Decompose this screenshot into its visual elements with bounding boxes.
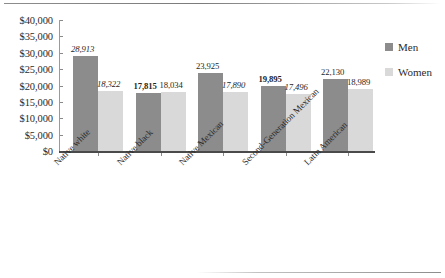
legend-item-label: Women (398, 66, 432, 78)
y-axis-tick-label: $20,000 (20, 80, 53, 91)
bar-value-label: 19,895 (259, 74, 282, 84)
x-axis-tick-mark (223, 153, 224, 156)
y-axis-tick-label: $0 (43, 146, 53, 157)
bar-value-label: 18,322 (97, 79, 120, 89)
bar-value-label: 23,925 (196, 61, 219, 71)
bar-value-label: 28,913 (71, 44, 94, 54)
y-axis-tick-label: $40,000 (20, 15, 53, 26)
legend-item-label: Men (398, 41, 418, 53)
bar-women[interactable] (161, 92, 186, 151)
bar-women[interactable] (223, 92, 248, 151)
y-axis-tick-label: $5,000 (25, 129, 53, 140)
legend-swatch-icon (385, 68, 393, 76)
bar-value-label: 17,815 (134, 81, 157, 91)
bar-value-label: 17,890 (222, 80, 245, 90)
y-axis-tick-label: $35,000 (20, 31, 53, 42)
x-axis-tick-mark (348, 153, 349, 156)
y-axis-tick-label: $30,000 (20, 47, 53, 58)
bar-value-label: 18,989 (347, 77, 370, 87)
bar-value-label: 17,496 (285, 82, 308, 92)
bar-women[interactable] (98, 91, 123, 151)
bar-value-label: 22,130 (321, 67, 344, 77)
x-axis-line (59, 151, 375, 153)
x-axis-tick-mark (161, 153, 162, 156)
legend-item-women[interactable]: Women (385, 66, 443, 78)
bottom-divider-rule (196, 272, 441, 273)
bar-value-label: 18,034 (160, 80, 183, 90)
legend-swatch-icon (385, 43, 393, 51)
x-axis-tick-mark (286, 153, 287, 156)
y-axis-tick-labels: $40,000$35,000$30,000$25,000$20,000$15,0… (0, 20, 53, 151)
y-axis-tick-label: $10,000 (20, 113, 53, 124)
legend-item-men[interactable]: Men (385, 41, 443, 53)
bar-women[interactable] (348, 89, 373, 151)
chart-legend: MenWomen (385, 41, 443, 91)
y-axis-tick-label: $15,000 (20, 96, 53, 107)
x-axis-tick-mark (98, 153, 99, 156)
y-axis-tick-label: $25,000 (20, 64, 53, 75)
top-divider-rule (4, 3, 441, 4)
